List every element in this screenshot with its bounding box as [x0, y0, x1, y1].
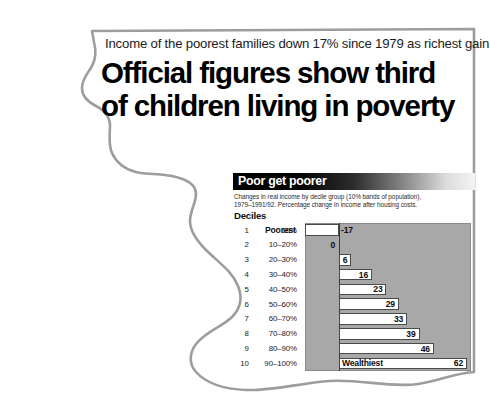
bar-value-label: 39 — [398, 329, 416, 339]
decile-band-label: 20–30% — [253, 255, 297, 264]
decile-band-label: 90–100% — [253, 359, 297, 368]
chart-subtitle-line-2: 1979–1991/92. Percentage change in incom… — [234, 201, 469, 209]
table-row: 870–80%39 — [233, 327, 475, 342]
chart-subtitle: Changes in real income by decile group (… — [234, 193, 469, 208]
bar-end-label: Wealthiest — [342, 358, 383, 368]
bar-value-label: -17 — [341, 225, 353, 235]
decile-band-label: 40–50% — [253, 285, 297, 294]
decile-band-label: 70–80% — [253, 329, 297, 338]
table-row: 110%-17Poorest — [233, 223, 475, 238]
decile-band-label: 30–40% — [253, 270, 297, 279]
chart-panel: Poor get poorer Changes in real income b… — [233, 173, 475, 378]
decile-number: 3 — [233, 255, 249, 264]
bar-value-label: 16 — [350, 270, 368, 280]
decile-number: 1 — [233, 226, 249, 235]
headline-line-1: Official figures show third — [101, 57, 479, 90]
chart-subtitle-line-1: Changes in real income by decile group (… — [234, 193, 469, 201]
table-row: 320–30%6 — [233, 253, 475, 268]
table-row: 430–40%16 — [233, 267, 475, 282]
decile-band-label: 10–20% — [253, 240, 297, 249]
chart-bar — [305, 224, 339, 236]
chart-rows: 110%-17Poorest210–20%0320–30%6430–40%165… — [233, 223, 475, 371]
table-row: 650–60%29 — [233, 297, 475, 312]
decile-band-label: 80–90% — [253, 344, 297, 353]
article-headline: Official figures show third of children … — [101, 57, 479, 122]
decile-band-label: 50–60% — [253, 300, 297, 309]
table-row: 210–20%0 — [233, 238, 475, 253]
clipping-content: Income of the poorest families down 17% … — [0, 0, 490, 415]
decile-number: 5 — [233, 285, 249, 294]
article-strapline: Income of the poorest families down 17% … — [105, 36, 465, 52]
decile-band-label: 60–70% — [253, 314, 297, 323]
table-row: 1090–100%62Wealthiest — [233, 356, 475, 371]
decile-number: 4 — [233, 270, 249, 279]
bar-value-label: 46 — [412, 344, 430, 354]
deciles-axis-header: Deciles — [234, 210, 266, 221]
headline-line-2: of children living in poverty — [101, 90, 479, 123]
table-row: 540–50%23 — [233, 282, 475, 297]
decile-number: 9 — [233, 344, 249, 353]
chart-title: Poor get poorer — [238, 174, 326, 188]
decile-number: 7 — [233, 314, 249, 323]
bar-value-label: 62 — [445, 358, 463, 368]
table-row: 980–90%46 — [233, 341, 475, 356]
chart-title-bar: Poor get poorer — [233, 173, 475, 190]
bar-value-label: 23 — [364, 284, 382, 294]
bar-value-label: 0 — [317, 240, 335, 250]
newspaper-clipping-page: Income of the poorest families down 17% … — [0, 0, 490, 415]
bar-end-label: Poorest — [265, 225, 296, 235]
bar-value-label: 33 — [385, 314, 403, 324]
decile-number: 2 — [233, 240, 249, 249]
decile-number: 10 — [233, 359, 249, 368]
bar-value-label: 29 — [377, 299, 395, 309]
decile-number: 8 — [233, 329, 249, 338]
table-row: 760–70%33 — [233, 312, 475, 327]
bar-value-label: 6 — [329, 255, 347, 265]
decile-number: 6 — [233, 300, 249, 309]
